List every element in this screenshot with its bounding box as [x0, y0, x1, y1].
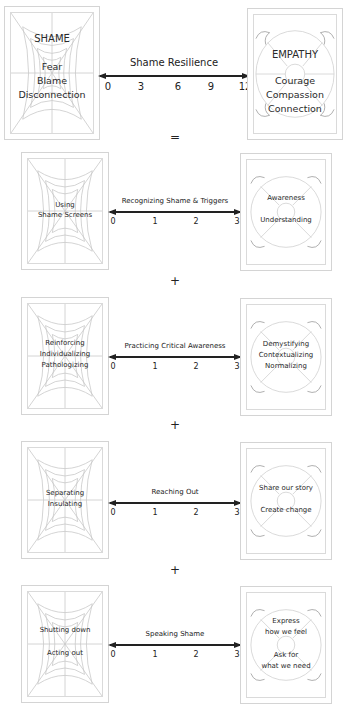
scale-tick: 6: [175, 81, 181, 92]
plus-operator: +: [0, 563, 350, 577]
shame-line: Disconnection: [5, 89, 99, 101]
empathy-ring-frame: Express how we feel Ask for what we need: [240, 586, 332, 704]
empathy-frame: EMPATHY Courage Compassion Connection: [247, 8, 343, 140]
empathy-item: Awareness: [241, 194, 331, 203]
empathy-title: EMPATHY: [248, 49, 342, 62]
scale-tick: 3: [138, 81, 144, 92]
scale-tick: 0: [105, 81, 111, 92]
shame-item: Insulating: [22, 500, 108, 509]
shame-item: Individualizing: [22, 350, 108, 359]
empathy-ring-frame: Demystifying Contextualizing Normalizing: [240, 298, 332, 416]
empathy-item: Share our story: [241, 484, 331, 493]
empathy-ring-frame: Awareness Understanding: [240, 153, 332, 271]
shame-item: Shutting down: [22, 626, 108, 635]
equals-operator: =: [0, 130, 350, 144]
arrow-left-icon: [108, 354, 116, 360]
shame-item: Shame Screens: [22, 211, 108, 220]
scale-tick: 0: [110, 650, 115, 659]
critical-awareness-scale: Practicing Critical Awareness 0 1 2 3: [110, 340, 240, 375]
spider-web-icon: [11, 13, 93, 133]
empathy-ring-frame: Share our story Create change: [240, 442, 332, 560]
scale-tick: 0: [110, 508, 115, 517]
scale-tick: 2: [193, 650, 198, 659]
shame-item: Acting out: [22, 649, 108, 658]
arrow-left-icon: [108, 209, 116, 215]
life-preserver-icon: [247, 449, 325, 553]
scale-tick: 1: [152, 217, 157, 226]
arrow-left-icon: [108, 642, 116, 648]
scale-tick: 1: [152, 362, 157, 371]
empathy-line: Compassion: [248, 89, 342, 101]
empathy-item: Demystifying: [241, 340, 331, 349]
scale-tick: 2: [193, 217, 198, 226]
scale-tick: 1: [152, 508, 157, 517]
scale-tick: 2: [193, 508, 198, 517]
scale-tick: 0: [110, 362, 115, 371]
scale-tick: 2: [193, 362, 198, 371]
empathy-line: Courage: [248, 75, 342, 87]
empathy-item: Normalizing: [241, 362, 331, 371]
plus-operator: +: [0, 418, 350, 432]
empathy-item: Express: [241, 617, 331, 626]
scale-tick: 9: [208, 81, 214, 92]
arrow-left-icon: [108, 500, 116, 506]
shame-frame: SHAME Fear Blame Disconnection: [4, 6, 100, 140]
empathy-item: how we feel: [241, 628, 331, 637]
life-preserver-icon: [247, 160, 325, 264]
empathy-item: what we need: [241, 662, 331, 671]
empathy-item: Contextualizing: [241, 351, 331, 360]
spider-web-icon: [28, 592, 102, 696]
empathy-item: Understanding: [241, 216, 331, 225]
arrow-left-icon: [98, 73, 106, 79]
scale-tick: 3: [234, 362, 239, 371]
scale-axis: [110, 211, 240, 213]
empathy-line: Connection: [248, 103, 342, 115]
plus-operator: +: [0, 274, 350, 288]
speaking-shame-scale: Speaking Shame 0 1 2 3: [110, 628, 240, 663]
shame-item: Using: [22, 201, 108, 210]
scale-axis: [100, 75, 248, 77]
scale-title: Shame Resilience: [100, 57, 248, 68]
life-preserver-icon: [254, 15, 336, 133]
shame-line: Fear: [5, 61, 99, 73]
life-preserver-icon: [247, 593, 325, 697]
scale-axis: [110, 502, 240, 504]
scale-title: Speaking Shame: [110, 630, 240, 638]
scale-axis: [110, 356, 240, 358]
shame-web-frame: Reinforcing Individualizing Pathologizin…: [21, 297, 109, 415]
scale-tick: 3: [234, 650, 239, 659]
scale-tick: 3: [234, 217, 239, 226]
shame-item: Pathologizing: [22, 361, 108, 370]
shame-web-frame: Using Shame Screens: [21, 152, 109, 270]
scale-tick: 0: [110, 217, 115, 226]
scale-tick: 3: [234, 508, 239, 517]
scale-title: Recognizing Shame & Triggers: [110, 197, 240, 205]
scale-tick: 1: [152, 650, 157, 659]
empathy-item: Create change: [241, 506, 331, 515]
reaching-out-scale: Reaching Out 0 1 2 3: [110, 486, 240, 521]
shame-line: Blame: [5, 75, 99, 87]
recognizing-shame-scale: Recognizing Shame & Triggers 0 1 2 3: [110, 195, 240, 230]
shame-resilience-scale: Shame Resilience 0 3 6 9 12: [100, 55, 248, 95]
shame-web-frame: Separating Insulating: [21, 441, 109, 559]
shame-item: Separating: [22, 489, 108, 498]
shame-item: Reinforcing: [22, 339, 108, 348]
empathy-item: Ask for: [241, 651, 331, 660]
scale-title: Practicing Critical Awareness: [110, 342, 240, 350]
shame-web-frame: Shutting down Acting out: [21, 585, 109, 703]
scale-axis: [110, 644, 240, 646]
shame-title: SHAME: [5, 33, 99, 46]
scale-title: Reaching Out: [110, 488, 240, 496]
